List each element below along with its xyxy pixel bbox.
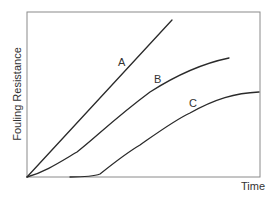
x-axis-label: Time [241, 180, 265, 192]
curve-b [27, 58, 229, 177]
curve-a-label: A [118, 56, 126, 68]
curve-b-label: B [154, 73, 161, 85]
plot-frame [27, 12, 260, 177]
y-axis-label: Fouling Resistance [11, 47, 23, 141]
curve-c-label: C [189, 97, 197, 109]
curve-a [27, 20, 172, 177]
fouling-chart: A B C Time Fouling Resistance [0, 0, 277, 203]
